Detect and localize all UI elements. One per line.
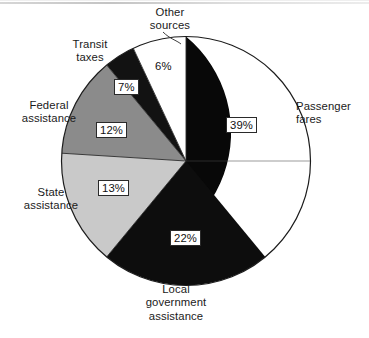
pie-chart-figure: Other sources Transit taxes Federal assi… <box>0 0 369 338</box>
slice-label-other-sources: Other sources <box>128 6 212 33</box>
slice-value-other-sources: 6% <box>155 60 172 72</box>
slice-label-local-government-assistance: Local government assistance <box>128 283 224 323</box>
slice-value-transit-taxes: 7% <box>114 79 139 95</box>
slice-value-local-government-assistance: 22% <box>170 230 201 246</box>
slice-value-passenger-fares: 39% <box>226 117 257 133</box>
slice-label-federal-assistance: Federal assistance <box>4 99 94 126</box>
slice-label-passenger-fares: Passenger fares <box>296 100 368 127</box>
slice-value-federal-assistance: 12% <box>96 122 127 138</box>
slice-value-state-assistance: 13% <box>98 180 129 196</box>
slice-label-state-assistance: State assistance <box>8 186 94 213</box>
slice-label-transit-taxes: Transit taxes <box>52 38 128 65</box>
